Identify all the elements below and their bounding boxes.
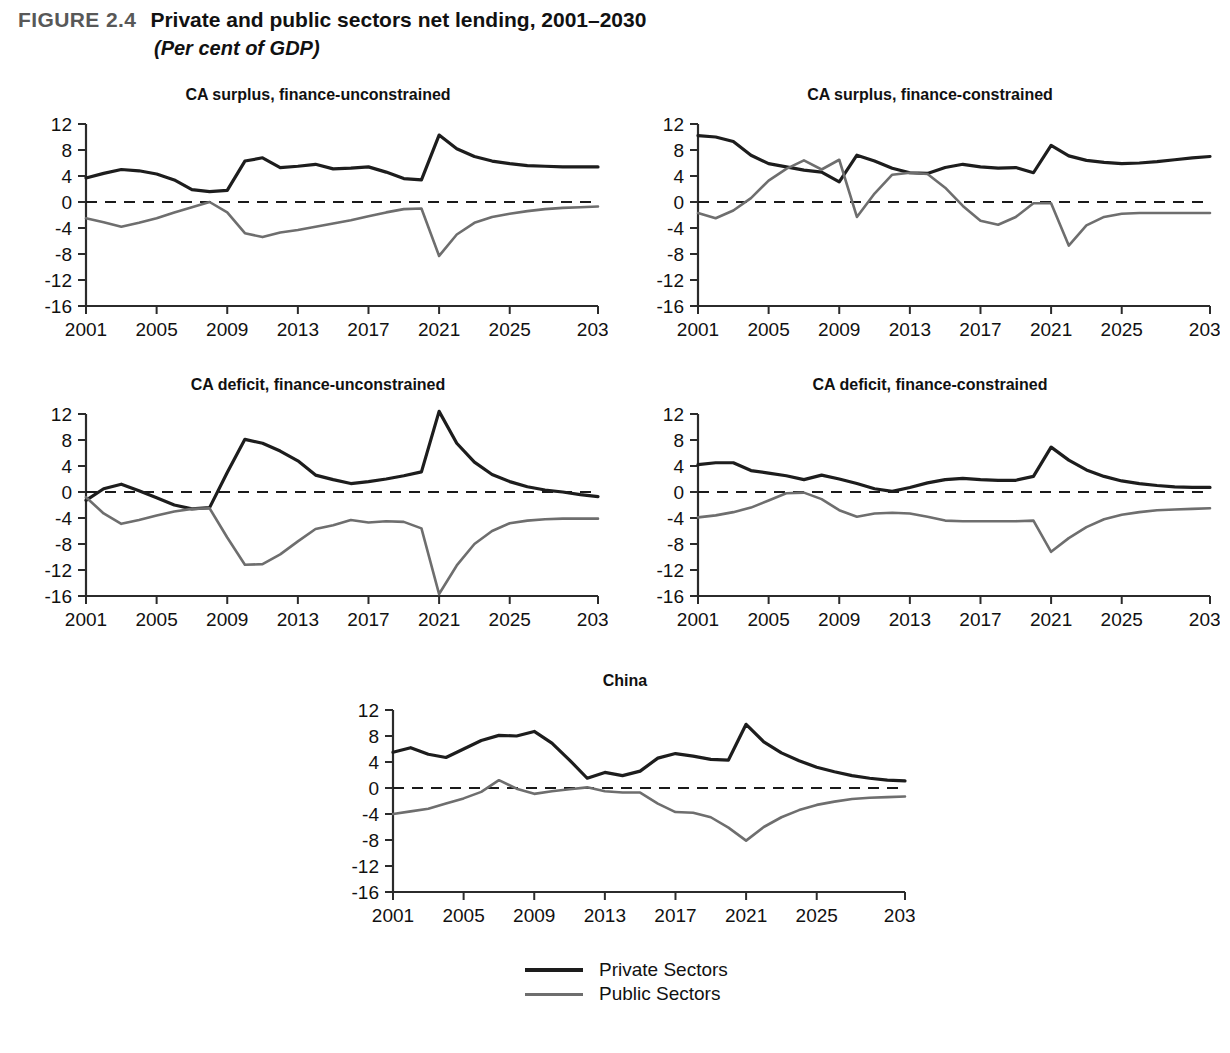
y-tick-label: 8 bbox=[673, 430, 684, 451]
panel-ca-deficit-finance-constrained: CA deficit, finance-constrained 12840-4-… bbox=[640, 376, 1220, 636]
x-tick-label: 2030 bbox=[1189, 609, 1220, 630]
x-tick-label: 2025 bbox=[1101, 609, 1143, 630]
panel-ca-deficit-finance-unconstrained: CA deficit, finance-unconstrained 12840-… bbox=[28, 376, 608, 636]
panel-china: China 12840-4-8-12-162001200520092013201… bbox=[335, 672, 915, 932]
panel-ca-surplus-finance-constrained: CA surplus, finance-constrained 12840-4-… bbox=[640, 86, 1220, 346]
y-tick-label: 8 bbox=[368, 726, 379, 747]
y-tick-label: -16 bbox=[45, 296, 72, 317]
y-tick-label: 12 bbox=[358, 700, 379, 721]
x-tick-label: 2025 bbox=[489, 609, 531, 630]
y-tick-label: 0 bbox=[61, 482, 72, 503]
y-tick-label: 12 bbox=[663, 404, 684, 425]
y-tick-label: -16 bbox=[657, 586, 684, 607]
y-tick-label: -12 bbox=[45, 270, 72, 291]
y-tick-label: -16 bbox=[352, 882, 379, 903]
y-tick-label: 4 bbox=[673, 456, 684, 477]
x-tick-label: 2009 bbox=[818, 609, 860, 630]
plot-area: 12840-4-8-12-162001200520092013201720212… bbox=[640, 110, 1220, 350]
x-tick-label: 2013 bbox=[277, 609, 319, 630]
y-tick-label: -8 bbox=[362, 830, 379, 851]
y-tick-label: -4 bbox=[362, 804, 379, 825]
legend-item-private: Private Sectors bbox=[525, 958, 825, 982]
x-tick-label: 2017 bbox=[347, 609, 389, 630]
panel-title: CA surplus, finance-constrained bbox=[640, 86, 1220, 104]
legend-line-public-icon bbox=[525, 993, 583, 996]
y-tick-label: -8 bbox=[667, 534, 684, 555]
legend-line-private-icon bbox=[525, 968, 583, 972]
x-tick-label: 2001 bbox=[65, 609, 107, 630]
series-line-public bbox=[86, 497, 598, 594]
x-tick-label: 2021 bbox=[1030, 609, 1072, 630]
series-line-private bbox=[393, 724, 905, 781]
legend-item-public: Public Sectors bbox=[525, 982, 825, 1006]
series-line-public bbox=[393, 780, 905, 840]
y-tick-label: 8 bbox=[61, 140, 72, 161]
x-tick-label: 2009 bbox=[513, 905, 555, 926]
x-tick-label: 2013 bbox=[889, 609, 931, 630]
y-tick-label: 8 bbox=[61, 430, 72, 451]
x-tick-label: 2030 bbox=[1189, 319, 1220, 340]
y-tick-label: -4 bbox=[55, 508, 72, 529]
panel-title: CA deficit, finance-constrained bbox=[640, 376, 1220, 394]
line-chart-svg: 12840-4-8-12-162001200520092013201720212… bbox=[640, 110, 1220, 350]
legend-label: Private Sectors bbox=[599, 959, 728, 981]
y-tick-label: -4 bbox=[667, 508, 684, 529]
legend: Private Sectors Public Sectors bbox=[525, 958, 825, 1006]
y-tick-label: 12 bbox=[51, 114, 72, 135]
y-tick-label: 0 bbox=[673, 192, 684, 213]
x-tick-label: 2021 bbox=[1030, 319, 1072, 340]
legend-label: Public Sectors bbox=[599, 983, 720, 1005]
y-tick-label: -12 bbox=[657, 560, 684, 581]
line-chart-svg: 12840-4-8-12-162001200520092013201720212… bbox=[335, 696, 915, 936]
y-tick-label: -16 bbox=[45, 586, 72, 607]
figure-number: FIGURE 2.4 bbox=[18, 8, 136, 32]
x-tick-label: 2001 bbox=[65, 319, 107, 340]
x-tick-label: 2001 bbox=[677, 609, 719, 630]
panel-title: CA deficit, finance-unconstrained bbox=[28, 376, 608, 394]
x-tick-label: 2017 bbox=[347, 319, 389, 340]
y-tick-label: 12 bbox=[51, 404, 72, 425]
x-tick-label: 2017 bbox=[959, 609, 1001, 630]
x-tick-label: 2009 bbox=[206, 319, 248, 340]
x-tick-label: 2005 bbox=[135, 319, 177, 340]
plot-area: 12840-4-8-12-162001200520092013201720212… bbox=[640, 400, 1220, 640]
x-tick-label: 2025 bbox=[1101, 319, 1143, 340]
y-tick-label: -8 bbox=[667, 244, 684, 265]
figure-subtitle: (Per cent of GDP) bbox=[154, 37, 1018, 60]
y-tick-label: 4 bbox=[368, 752, 379, 773]
x-tick-label: 2030 bbox=[577, 319, 608, 340]
x-tick-label: 2001 bbox=[677, 319, 719, 340]
x-tick-label: 2021 bbox=[418, 609, 460, 630]
x-tick-label: 2005 bbox=[135, 609, 177, 630]
x-tick-label: 2017 bbox=[959, 319, 1001, 340]
y-tick-label: 4 bbox=[61, 456, 72, 477]
x-tick-label: 2030 bbox=[577, 609, 608, 630]
y-tick-label: -8 bbox=[55, 244, 72, 265]
y-tick-label: 8 bbox=[673, 140, 684, 161]
figure-title: Private and public sectors net lending, … bbox=[150, 8, 646, 32]
x-tick-label: 2030 bbox=[884, 905, 915, 926]
series-line-public bbox=[86, 202, 598, 256]
y-tick-label: -12 bbox=[657, 270, 684, 291]
x-tick-label: 2025 bbox=[489, 319, 531, 340]
x-tick-label: 2005 bbox=[747, 319, 789, 340]
y-tick-label: -4 bbox=[55, 218, 72, 239]
panel-title: CA surplus, finance-unconstrained bbox=[28, 86, 608, 104]
y-tick-label: 0 bbox=[368, 778, 379, 799]
series-line-private bbox=[698, 447, 1210, 491]
x-tick-label: 2013 bbox=[584, 905, 626, 926]
x-tick-label: 2021 bbox=[418, 319, 460, 340]
x-tick-label: 2005 bbox=[442, 905, 484, 926]
x-tick-label: 2009 bbox=[206, 609, 248, 630]
figure-header: FIGURE 2.4 Private and public sectors ne… bbox=[18, 8, 1018, 60]
y-tick-label: 12 bbox=[663, 114, 684, 135]
line-chart-svg: 12840-4-8-12-162001200520092013201720212… bbox=[28, 110, 608, 350]
y-tick-label: 4 bbox=[61, 166, 72, 187]
plot-area: 12840-4-8-12-162001200520092013201720212… bbox=[28, 110, 608, 350]
x-tick-label: 2025 bbox=[796, 905, 838, 926]
y-tick-label: 0 bbox=[673, 482, 684, 503]
x-tick-label: 2005 bbox=[747, 609, 789, 630]
x-tick-label: 2013 bbox=[889, 319, 931, 340]
x-tick-label: 2009 bbox=[818, 319, 860, 340]
plot-area: 12840-4-8-12-162001200520092013201720212… bbox=[28, 400, 608, 640]
